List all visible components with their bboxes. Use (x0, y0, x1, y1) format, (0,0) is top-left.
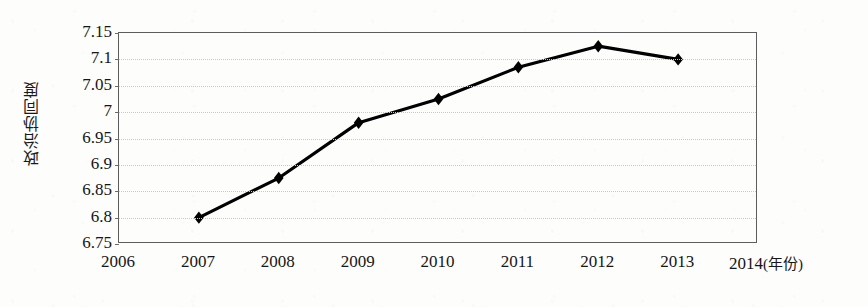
chart-figure: 政治协同度 7.157.17.0576.956.96.856.86.75 200… (0, 0, 868, 307)
y-axis-tick-label: 6.8 (56, 207, 112, 227)
y-axis-tick-mark (115, 112, 119, 113)
y-axis-tick-label: 7.1 (56, 48, 112, 68)
x-axis-tick-label: 2011 (501, 252, 534, 272)
y-axis-tick-mark (115, 218, 119, 219)
y-axis-tick-mark (115, 33, 119, 34)
x-axis-tick-label: 2008 (261, 252, 295, 272)
data-point-marker: 2009: 6.98 (354, 116, 364, 128)
x-axis-unit-label: (年份) (763, 256, 803, 272)
y-axis-tick-mark (115, 165, 119, 166)
x-axis-tick-label: 2012 (580, 252, 614, 272)
plot-area: 2007: 6.82008: 6.8752009: 6.982010: 7.02… (118, 32, 757, 243)
gridline-horizontal (119, 139, 756, 140)
x-axis-tick-label: 2014(年份) (729, 252, 803, 274)
x-axis-tick-label: 2007 (181, 252, 215, 272)
gridline-horizontal (119, 191, 756, 192)
y-axis-title: 政治协同度 (18, 44, 48, 204)
y-axis-tick-mark (115, 59, 119, 60)
y-axis-tick-label: 6.95 (56, 128, 112, 148)
y-axis-tick-label: 6.9 (56, 154, 112, 174)
data-point-marker: 2012: 7.125 (593, 40, 603, 52)
gridline-horizontal (119, 59, 756, 60)
y-axis-tick-mark (115, 191, 119, 192)
x-axis-tick-label: 2010 (421, 252, 455, 272)
x-axis-tick-labels: 200620072008200920102011201220132014(年份) (0, 252, 868, 292)
y-axis-tick-label: 7.05 (56, 75, 112, 95)
data-point-marker: 2008: 6.875 (274, 172, 284, 184)
x-axis-tick-label: 2013 (660, 252, 694, 272)
gridline-horizontal (119, 165, 756, 166)
gridline-horizontal (119, 86, 756, 87)
data-point-marker: 2010: 7.025 (434, 93, 444, 105)
y-axis-tick-label: 6.75 (56, 233, 112, 253)
y-axis-tick-label: 7 (56, 101, 112, 121)
y-axis-tick-mark (115, 244, 119, 245)
gridline-horizontal (119, 218, 756, 219)
y-axis-tick-label: 6.85 (56, 180, 112, 200)
gridline-horizontal (119, 112, 756, 113)
y-axis-tick-mark (115, 139, 119, 140)
y-axis-tick-mark (115, 86, 119, 87)
x-axis-tick-label: 2009 (341, 252, 375, 272)
x-axis-tick-label: 2006 (101, 252, 135, 272)
y-axis-tick-label: 7.15 (56, 22, 112, 42)
data-point-marker: 2011: 7.085 (514, 61, 524, 73)
